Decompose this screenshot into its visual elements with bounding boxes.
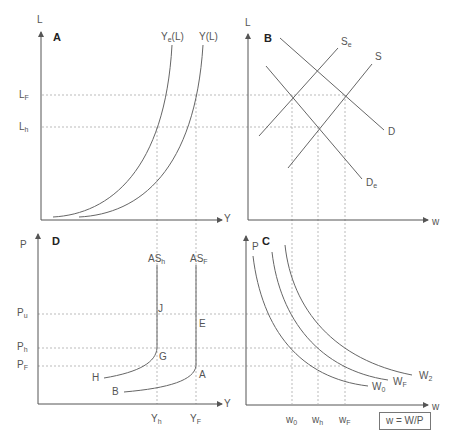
w2-curve [285, 245, 412, 375]
ash-curve [104, 265, 157, 378]
tick-pu: Pu [17, 308, 28, 319]
panel-label-c: C [262, 236, 270, 247]
ye-curve [53, 45, 172, 217]
diagram-canvas [0, 0, 460, 448]
curve-label-s: S [375, 52, 382, 62]
tick-w0: w0 [286, 415, 297, 426]
tick-wh: wh [312, 415, 323, 426]
axis-label-d-x: Y [224, 399, 231, 409]
tick-lf: LF [19, 90, 29, 101]
tick-pf: PF [17, 360, 28, 371]
y-curve [79, 45, 203, 217]
point-h: H [92, 373, 99, 383]
de-curve [266, 66, 362, 179]
curve-label-wf: WF [393, 377, 407, 388]
se-curve [259, 48, 338, 136]
legend-box: w = W/P [379, 412, 431, 430]
w0-curve [253, 256, 368, 386]
curve-label-d: D [388, 127, 395, 137]
tick-yf: YF [190, 414, 201, 425]
axis-label-b-x: w [432, 217, 439, 227]
panel-label-b: B [264, 33, 272, 44]
tick-wf: wF [339, 415, 351, 426]
axis-label-d-y: P [20, 240, 27, 250]
curve-label-y: Y(L) [199, 32, 218, 42]
panel-label-d: D [52, 236, 60, 247]
point-b: B [112, 387, 119, 397]
point-g: G [159, 352, 167, 362]
axis-label-a-y: L [37, 15, 43, 25]
curve-label-de: De [366, 178, 377, 189]
axis-label-a-x: Y [224, 214, 231, 224]
curve-label-se: Se [341, 37, 352, 48]
curves [53, 38, 412, 392]
axis-label-b-y: L [245, 18, 251, 28]
axis-label-c-y: P [252, 242, 259, 252]
axis-label-c-x: w [432, 402, 439, 412]
panel-label-a: A [53, 32, 61, 43]
tick-ph: Ph [17, 342, 28, 353]
curve-label-ash: ASh [148, 254, 165, 265]
d-curve [280, 38, 384, 130]
tick-yh: Yh [151, 414, 162, 425]
s-curve [288, 64, 372, 168]
curve-label-w0: W0 [372, 382, 385, 393]
point-a: A [199, 370, 206, 380]
curve-label-w2: W2 [419, 371, 432, 382]
tick-lh: Lh [19, 122, 28, 133]
curve-label-ye: Ye(L) [161, 32, 184, 43]
axes [38, 32, 428, 405]
point-j: J [158, 304, 163, 314]
wf-curve [272, 252, 388, 380]
curve-label-asf: ASF [190, 254, 208, 265]
point-e: E [199, 319, 206, 329]
asf-curve [124, 265, 196, 392]
